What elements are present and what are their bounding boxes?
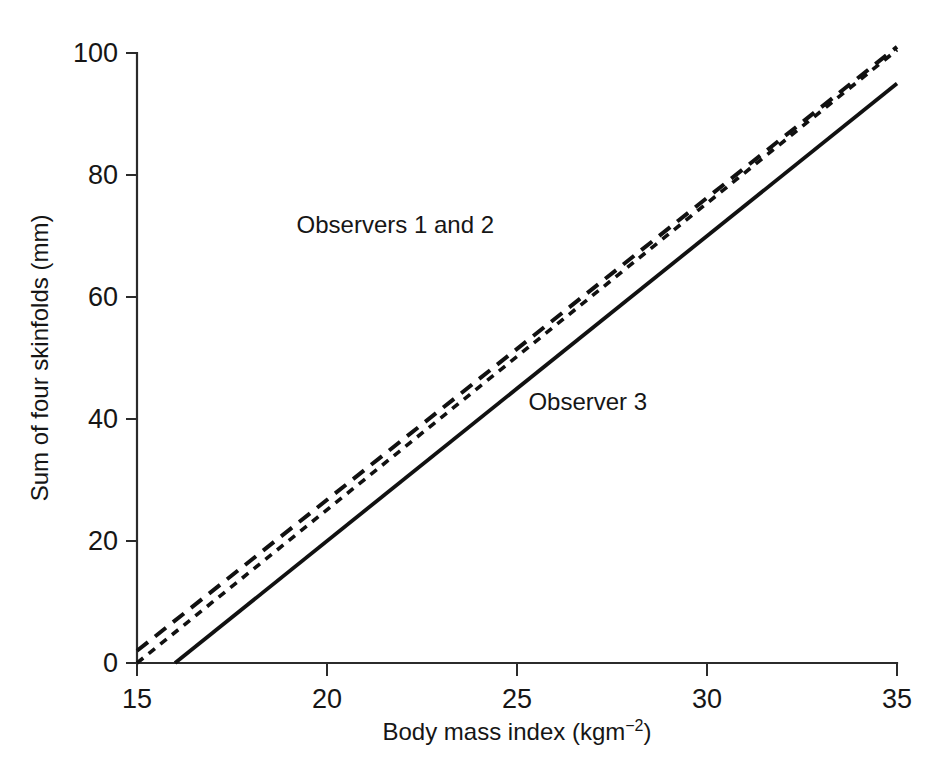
x-axis-title-suffix: ): [644, 718, 652, 745]
skinfolds-vs-bmi-chart: 020406080100 1520253035 Observers 1 and …: [0, 0, 945, 771]
x-axis-title-main: Body mass index (kgm: [382, 718, 625, 745]
x-tick-label: 15: [122, 684, 152, 714]
y-tick-label: 100: [73, 38, 118, 68]
y-axis-title: Sum of four skinfolds (mm): [26, 215, 53, 502]
series-line-observer-1: [137, 47, 897, 651]
x-tick-label: 20: [312, 684, 342, 714]
x-axis-title: Body mass index (kgm−2): [382, 717, 651, 745]
x-tick-label: 25: [502, 684, 532, 714]
series-line-observer-3: [175, 84, 897, 664]
y-tick-label: 60: [88, 282, 118, 312]
y-axis-ticks: 020406080100: [73, 38, 137, 678]
x-tick-label: 30: [692, 684, 722, 714]
chart-figure: 020406080100 1520253035 Observers 1 and …: [0, 0, 945, 771]
x-axis-title-superscript: −2: [625, 717, 643, 734]
series-line-observer-2: [137, 50, 897, 663]
y-tick-label: 0: [103, 648, 118, 678]
x-axis-ticks: 1520253035: [122, 663, 912, 714]
y-tick-label: 80: [88, 160, 118, 190]
series-annotation: Observer 3: [528, 388, 647, 415]
y-tick-label: 20: [88, 526, 118, 556]
x-tick-label: 35: [882, 684, 912, 714]
series-annotation: Observers 1 and 2: [297, 211, 494, 238]
data-series-group: [137, 47, 897, 663]
y-tick-label: 40: [88, 404, 118, 434]
